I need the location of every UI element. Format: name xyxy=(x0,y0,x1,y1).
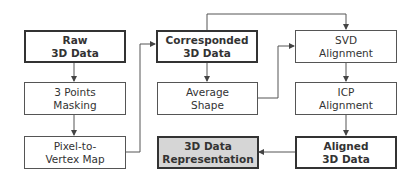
node-aligned-3d-data: Aligned 3D Data xyxy=(295,136,397,169)
node-label: Raw 3D Data xyxy=(51,34,99,60)
node-icp-alignment: ICP Alignment xyxy=(295,82,397,115)
node-label: 3D Data Representation xyxy=(162,140,253,166)
node-label: ICP Alignment xyxy=(319,86,373,112)
node-label: 3 Points Masking xyxy=(53,86,96,112)
node-corresponded-3d-data: Corresponded 3D Data xyxy=(156,30,258,63)
node-pixel-to-vertex-map: Pixel-to- Vertex Map xyxy=(24,136,126,169)
node-3-points-masking: 3 Points Masking xyxy=(24,82,126,115)
node-label: Average Shape xyxy=(186,86,229,112)
node-label: SVD Alignment xyxy=(319,34,373,60)
node-label: Aligned 3D Data xyxy=(322,140,370,166)
node-label: Pixel-to- Vertex Map xyxy=(45,140,104,166)
node-average-shape: Average Shape xyxy=(157,82,258,115)
node-3d-data-representation: 3D Data Representation xyxy=(157,136,259,169)
node-label: Corresponded 3D Data xyxy=(165,34,248,60)
node-svd-alignment: SVD Alignment xyxy=(295,30,397,63)
node-raw-3d-data: Raw 3D Data xyxy=(24,30,126,63)
